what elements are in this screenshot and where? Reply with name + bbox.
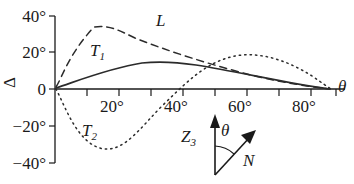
y-tick-label-0: 0	[2, 81, 46, 98]
x-tick-label-60: 60°	[228, 98, 252, 115]
figure-container: Δ 40° 20° 0 −20° −40° 20° 40° 60° 80° θ …	[0, 0, 354, 184]
inset-angle-arc	[215, 146, 234, 154]
x-tick-label-40: 40°	[164, 98, 188, 115]
inset-n-arrowhead	[241, 130, 256, 144]
curve-T1	[56, 62, 330, 89]
inset-label-z3-subscript: 3	[190, 136, 196, 148]
x-axis-ticks	[87, 89, 336, 96]
inset-label-z3: Z3	[181, 128, 196, 148]
inset-label-n: N	[243, 152, 254, 169]
x-tick-label-80: 80°	[292, 98, 316, 115]
y-tick-label-40: 40°	[2, 8, 46, 25]
curve-label-L: L	[156, 12, 165, 29]
inset-z3-arrowhead	[210, 114, 220, 128]
curve-label-T2-subscript: 2	[91, 130, 97, 142]
inset-label-theta: θ	[221, 122, 229, 139]
curve-label-T1-subscript: 1	[99, 50, 105, 62]
y-tick-label-20: 20°	[2, 44, 46, 61]
x-axis-label: θ	[338, 78, 346, 95]
curve-label-T2: T2	[82, 122, 97, 142]
curve-label-T1: T1	[90, 42, 105, 62]
y-axis-ticks	[49, 16, 55, 163]
x-tick-label-20: 20°	[100, 98, 124, 115]
y-tick-label-minus-40: −40°	[0, 155, 46, 172]
y-tick-label-minus-20: −20°	[0, 118, 46, 135]
plot-svg	[0, 0, 354, 184]
